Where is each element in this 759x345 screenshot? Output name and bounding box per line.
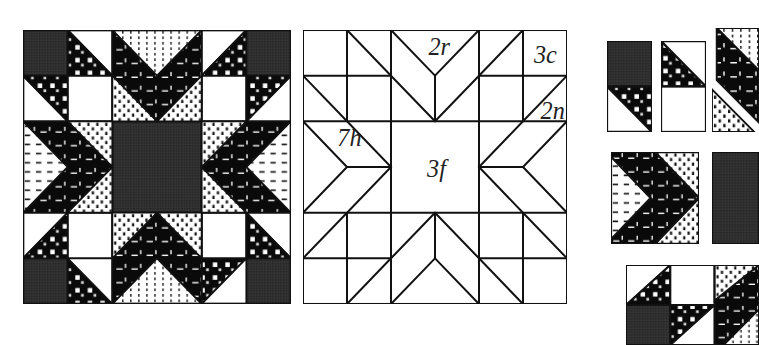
unit-corner-b [661,41,706,132]
unit-chevron [611,152,699,244]
label-3c: 3c [533,40,557,67]
label-2r: 2r [428,33,450,60]
piecing-line-diagram: 2r 3c 2n 7h 3f [303,30,567,304]
label-2n: 2n [541,97,565,124]
unit-diagonal-strip [712,28,759,132]
label-3f: 3f [426,155,449,182]
unit-corner-a [607,41,652,132]
unit-corner-four-patch [626,265,759,345]
label-7h: 7h [337,124,361,151]
unit-center-square [712,152,759,244]
colored-quilt-block [23,30,291,304]
